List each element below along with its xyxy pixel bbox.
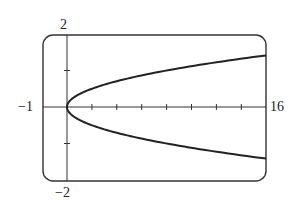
window-frame bbox=[43, 35, 266, 181]
y-max-label: 2 bbox=[60, 18, 67, 32]
graph-viewing-window bbox=[0, 0, 299, 204]
x-min-label: −1 bbox=[18, 100, 33, 114]
y-min-label: −2 bbox=[55, 186, 70, 200]
axes bbox=[43, 35, 266, 181]
x-max-label: 16 bbox=[270, 100, 284, 114]
